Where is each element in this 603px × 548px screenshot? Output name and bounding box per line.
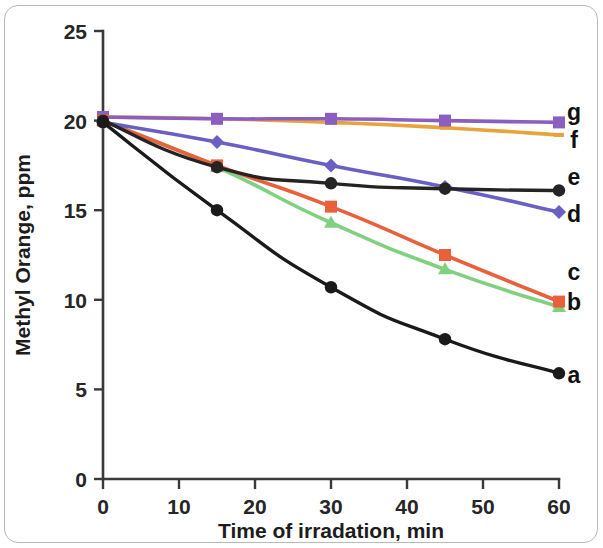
x-tick-label: 10 (167, 495, 190, 518)
x-tick-label: 20 (243, 495, 266, 518)
line-chart: 0510152025 0102030405060 abcdefg Time of… (0, 0, 603, 548)
y-tick-label-group: 0510152025 (64, 20, 88, 491)
series-label-c: c (568, 259, 581, 285)
data-point-marker (325, 281, 337, 293)
data-point-marker (210, 135, 224, 149)
series-label-d: d (567, 201, 581, 227)
x-tick-label: 30 (319, 495, 342, 518)
data-point-marker (325, 113, 337, 125)
y-axis-title: Methyl Orange, ppm (11, 154, 34, 356)
y-tick-label: 5 (75, 378, 87, 401)
data-point-marker (325, 177, 337, 189)
series-label-a: a (568, 362, 581, 388)
series-group (96, 111, 566, 379)
y-tick-group (94, 31, 103, 479)
data-point-marker (439, 115, 451, 127)
data-point-marker (439, 333, 451, 345)
series-label-e: e (568, 164, 581, 190)
series-label-b: b (567, 289, 581, 315)
x-tick-label: 40 (395, 495, 418, 518)
y-tick-label: 0 (75, 468, 87, 491)
data-point-marker (553, 116, 565, 128)
data-point-marker (211, 204, 223, 216)
y-tick-label: 15 (64, 199, 88, 222)
data-point-marker (325, 201, 337, 213)
chart-figure: 0510152025 0102030405060 abcdefg Time of… (0, 0, 603, 548)
y-tick-label: 25 (64, 20, 88, 43)
data-point-marker (439, 249, 451, 261)
data-point-marker (211, 161, 223, 173)
x-tick-label: 50 (471, 495, 494, 518)
series-label-group: abcdefg (567, 99, 581, 388)
data-point-marker (553, 296, 565, 308)
data-point-marker (439, 182, 451, 194)
chart-axes (103, 31, 559, 479)
data-point-marker (97, 116, 109, 128)
data-point-marker (552, 205, 566, 219)
data-point-marker (553, 367, 565, 379)
series-label-f: f (570, 127, 578, 153)
series-label-g: g (567, 99, 581, 125)
x-tick-label-group: 0102030405060 (97, 495, 571, 518)
data-point-marker (554, 133, 564, 137)
y-tick-label: 10 (64, 289, 87, 312)
data-point-marker (324, 158, 338, 172)
data-point-marker (553, 184, 565, 196)
data-point-marker (211, 113, 223, 125)
x-axis-title: Time of irradation, min (218, 519, 444, 542)
x-tick-label: 0 (97, 495, 109, 518)
x-tick-group (103, 479, 559, 489)
x-tick-label: 60 (547, 495, 570, 518)
y-tick-label: 20 (64, 110, 87, 133)
